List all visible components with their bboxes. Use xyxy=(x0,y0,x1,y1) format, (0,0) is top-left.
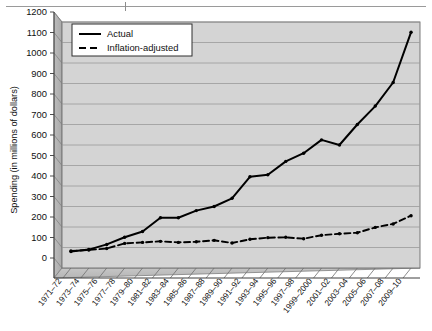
data-point xyxy=(141,241,144,244)
data-point xyxy=(69,249,72,252)
data-point xyxy=(320,138,323,141)
y-tick-label: 0 xyxy=(42,252,47,263)
y-axis-title: Spending (in millions of dollars) xyxy=(9,86,19,214)
data-point xyxy=(338,232,341,235)
data-point xyxy=(87,248,90,251)
y-tick-label: 300 xyxy=(31,191,47,202)
x-axis-tick-labels: 1971–721973–741975–761977–781979–801981–… xyxy=(36,276,404,315)
plot-left-wall xyxy=(54,12,62,278)
y-tick-label: 900 xyxy=(31,68,47,79)
data-point xyxy=(177,216,180,219)
data-point xyxy=(409,31,412,34)
data-point xyxy=(123,242,126,245)
data-point xyxy=(284,236,287,239)
data-point xyxy=(320,234,323,237)
data-point xyxy=(230,197,233,200)
data-point xyxy=(391,81,394,84)
data-point xyxy=(409,214,412,217)
y-axis-tick-labels: 0100200300400500600700800900100011001200 xyxy=(26,6,47,263)
chart-legend: ActualInflation-adjusted xyxy=(72,24,192,56)
y-tick-label: 100 xyxy=(31,232,47,243)
data-point xyxy=(177,241,180,244)
y-tick-label: 1000 xyxy=(26,47,47,58)
y-axis-title-text: Spending (in millions of dollars) xyxy=(9,86,19,214)
data-point xyxy=(248,175,251,178)
chart-container: 0100200300400500600700800900100011001200… xyxy=(0,0,432,331)
data-point xyxy=(159,240,162,243)
data-point xyxy=(356,123,359,126)
data-point xyxy=(230,241,233,244)
data-point xyxy=(212,239,215,242)
data-point xyxy=(248,238,251,241)
page-top-rule xyxy=(6,6,426,7)
data-point xyxy=(159,216,162,219)
line-chart: 0100200300400500600700800900100011001200… xyxy=(0,0,432,331)
y-tick-label: 500 xyxy=(31,150,47,161)
y-tick-label: 700 xyxy=(31,109,47,120)
data-point xyxy=(374,104,377,107)
legend-label: Inflation-adjusted xyxy=(107,42,178,53)
data-point xyxy=(284,160,287,163)
data-point xyxy=(123,236,126,239)
y-tick-label: 1200 xyxy=(26,6,47,17)
data-point xyxy=(302,237,305,240)
data-point xyxy=(356,231,359,234)
y-tick-label: 200 xyxy=(31,211,47,222)
data-point xyxy=(374,226,377,229)
data-point xyxy=(105,243,108,246)
data-point xyxy=(338,143,341,146)
y-tick-label: 1100 xyxy=(27,27,47,38)
page-top-rule-tick xyxy=(125,2,126,11)
data-point xyxy=(302,152,305,155)
data-point xyxy=(141,230,144,233)
data-point xyxy=(195,209,198,212)
y-tick-label: 800 xyxy=(31,88,47,99)
y-tick-label: 600 xyxy=(31,129,47,140)
data-point xyxy=(195,240,198,243)
data-point xyxy=(391,222,394,225)
legend-label: Actual xyxy=(107,28,133,39)
y-tick-label: 400 xyxy=(31,170,47,181)
data-point xyxy=(105,247,108,250)
data-point xyxy=(266,236,269,239)
data-point xyxy=(212,205,215,208)
data-point xyxy=(266,173,269,176)
